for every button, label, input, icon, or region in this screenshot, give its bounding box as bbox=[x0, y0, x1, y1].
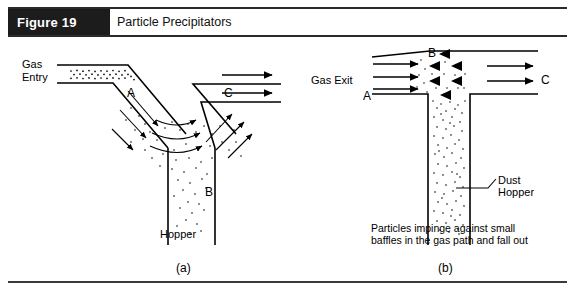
gas-exit-label: Gas Exit bbox=[311, 74, 353, 86]
gas-entry-label-line1: Gas bbox=[22, 58, 42, 70]
dust-column bbox=[433, 107, 465, 235]
outlet-arrows-b bbox=[487, 66, 533, 81]
baffles-b-label: B bbox=[428, 47, 436, 59]
footer-rule bbox=[8, 281, 567, 283]
diagram-a-geometry bbox=[57, 65, 281, 245]
hopper-label: Hopper bbox=[160, 228, 196, 240]
figure-panel: Figure 19 Particle Precipitators bbox=[0, 0, 575, 296]
diagram-b-caption-line1: Particles impinge against small bbox=[371, 222, 515, 235]
diagram-b-caption-line2: baffles in the gas path and fall out bbox=[371, 234, 528, 247]
gas-entry-label-line2: Entry bbox=[22, 71, 48, 83]
inlet-particle-band bbox=[70, 70, 135, 81]
header-bottom-rule bbox=[8, 35, 567, 37]
outlet-c-label-b: C bbox=[541, 74, 550, 86]
inlet-a-label-b: A bbox=[363, 90, 371, 102]
dust-hopper-label-line2: Hopper bbox=[498, 186, 534, 198]
particle-cloud-a bbox=[125, 107, 242, 235]
zone-a-label: A bbox=[127, 87, 135, 99]
figure-title: Particle Precipitators bbox=[117, 9, 232, 35]
dust-hopper-label-line1: Dust bbox=[498, 174, 521, 186]
inlet-arrows-b bbox=[373, 64, 418, 89]
dust-hopper-leader bbox=[456, 179, 496, 188]
figure-number-tag: Figure 19 bbox=[8, 9, 110, 35]
subfigure-label-b: (b) bbox=[438, 262, 453, 274]
subfigure-label-a: (a) bbox=[176, 262, 191, 274]
flow-arrows-arm-c bbox=[206, 114, 252, 158]
zone-c-label: C bbox=[224, 87, 233, 99]
flow-arrows-arm-a bbox=[112, 91, 158, 150]
zone-b-label: B bbox=[205, 186, 213, 198]
